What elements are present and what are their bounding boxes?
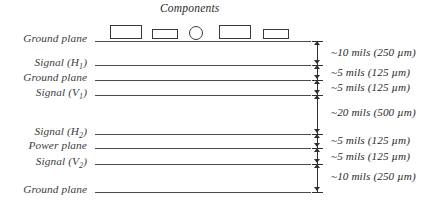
dim-2-tick-top [312,65,323,66]
dim-1-label: ~10 mils (250 µm) [331,46,416,58]
layer-label-signal-v1: Signal (V1) [36,86,87,101]
layer-line-signal-v2 [95,164,311,165]
dim-4-label: ~20 mils (500 µm) [331,106,416,118]
dim-1-tick-top [312,41,323,42]
component-5 [263,29,289,39]
component-3 [189,26,203,40]
dim-7-tick-bottom [312,192,323,193]
dim-7-tick-top [312,164,323,165]
dim-5-tick-top [312,134,323,135]
components-title: Components [160,2,220,14]
dim-3-tick-top [312,80,323,81]
layer-line-signal-v1 [95,95,311,96]
dim-7-label: ~10 mils (250 µm) [331,170,416,182]
layer-line-ground-plane-top [95,41,311,42]
dim-5-label: ~5 mils (125 µm) [331,134,410,146]
dim-4-tick-top [312,95,323,96]
pcb-stackup-diagram: Components Ground planeSignal (H1)Ground… [0,0,439,209]
layer-label-signal-v2: Signal (V2) [36,155,87,170]
dim-6-arrow-down-icon [314,159,320,163]
dim-5-arrow-down-icon [314,143,320,147]
layer-line-power-plane [95,148,311,149]
layer-label-signal-h2: Signal (H2) [35,125,88,140]
dim-4-arrow-down-icon [314,129,320,133]
layer-label-ground-plane-top: Ground plane [23,32,87,44]
dim-3-label: ~5 mils (125 µm) [331,81,410,93]
dim-3-arrow-down-icon [314,90,320,94]
layer-line-ground-plane-bottom [95,192,311,193]
dim-2-label: ~5 mils (125 µm) [331,66,410,78]
dim-1-arrow-down-icon [314,60,320,64]
layer-line-ground-plane-2 [95,80,311,81]
component-1 [110,25,142,39]
dim-7-arrow-down-icon [314,187,320,191]
layer-label-signal-h1: Signal (H1) [35,56,88,71]
layer-label-power-plane: Power plane [28,139,87,151]
layer-label-ground-plane-bottom: Ground plane [23,183,87,195]
dim-2-arrow-down-icon [314,75,320,79]
layer-label-ground-plane-2: Ground plane [23,71,87,83]
dim-6-tick-top [312,148,323,149]
layer-line-signal-h2 [95,134,311,135]
component-2 [152,29,178,39]
component-4 [219,25,251,39]
layer-line-signal-h1 [95,65,311,66]
dim-6-label: ~5 mils (125 µm) [331,150,410,162]
